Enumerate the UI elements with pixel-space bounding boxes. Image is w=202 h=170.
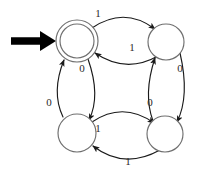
state-q-top-left[interactable] [56,20,98,62]
state-circle-outer [147,116,183,152]
start-arrow-head [40,31,56,51]
state-q-bottom-left[interactable] [58,114,96,152]
edge-tr-to-tl [95,53,158,64]
edge-bl-to-tl [57,60,64,117]
transition-label-tl-to-bl: 0 [79,62,85,74]
state-q-top-right[interactable] [148,24,184,60]
transition-label-br-to-bl: 1 [125,155,131,167]
transition-label-bl-to-br: 1 [95,122,101,134]
edge-br-to-tr [148,58,155,121]
transition-label-bl-to-tl: 0 [46,96,52,108]
edge-tl-to-tr [92,17,155,29]
state-circle-outer [148,24,184,60]
state-circle-outer [56,20,98,62]
transition-label-tr-to-br: 0 [177,62,183,74]
start-arrow [11,31,56,51]
state-nodes [56,20,184,152]
transition-label-tr-to-tl: 1 [129,41,135,53]
edge-bl-to-br [92,112,154,123]
state-circle-outer [58,114,96,152]
state-diagram-canvas: 1 1 0 0 0 0 1 1 [0,0,202,170]
transition-label-tl-to-tr: 1 [95,7,101,19]
edge-tl-to-bl [88,59,95,120]
state-q-bottom-right[interactable] [147,116,183,152]
transition-label-br-to-tr: 0 [147,96,153,108]
